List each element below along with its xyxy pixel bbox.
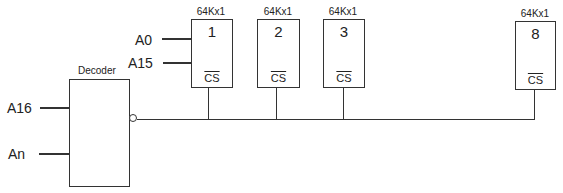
chip-3-number: 3	[324, 23, 364, 40]
chip-8-cs: CS	[516, 74, 555, 86]
chip-2: 2 CS	[257, 19, 300, 88]
chip-2-cs: CS	[258, 72, 299, 84]
chip-2-number: 2	[258, 23, 299, 40]
chip-1: 1 CS	[191, 19, 233, 88]
chip-8-number: 8	[516, 25, 555, 42]
inverter-bubble-icon	[129, 114, 137, 122]
chip-3-title: 64Kx1	[313, 6, 373, 17]
label-a16: A16	[7, 100, 32, 116]
cs-label: CS	[336, 72, 351, 84]
chip-2-title: 64Kx1	[248, 6, 308, 17]
label-a0: A0	[135, 32, 152, 48]
chip-8-cs-wire	[534, 90, 536, 120]
chip-1-number: 1	[192, 23, 232, 40]
decoder-title: Decoder	[78, 65, 116, 76]
cs-label: CS	[204, 72, 219, 84]
chip-1-title: 64Kx1	[181, 6, 241, 17]
cs-label: CS	[271, 72, 286, 84]
a15-wire	[163, 62, 191, 64]
chip-3-cs: CS	[324, 72, 364, 84]
label-an: An	[8, 146, 25, 162]
label-a15: A15	[128, 55, 153, 71]
chip-select-bus	[137, 119, 535, 121]
decoder-block	[69, 79, 130, 187]
chip-3-cs-wire	[343, 88, 345, 119]
a16-wire	[40, 107, 70, 109]
chip-1-cs: CS	[192, 72, 232, 84]
chip-8: 8 CS	[515, 21, 556, 90]
chip-3: 3 CS	[323, 19, 365, 88]
chip-8-title: 64Kx1	[505, 8, 563, 19]
chip-2-cs-wire	[276, 88, 278, 119]
an-wire	[39, 153, 70, 155]
cs-label: CS	[528, 74, 543, 86]
chip-1-cs-wire	[208, 88, 210, 119]
a0-wire	[162, 38, 191, 40]
